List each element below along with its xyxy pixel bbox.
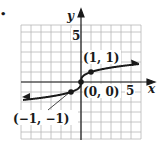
y-axis-label: y [66,9,75,23]
label-point-1-1: (1, 1) [83,51,119,65]
y-axis-arrow-icon [78,9,84,17]
point-1-1 [88,69,94,75]
label-point-origin: (0, 0) [83,85,119,99]
list-bullet: • [0,8,6,19]
x-tick-5: 5 [126,84,134,98]
point-neg1-neg1 [68,89,74,95]
cube-root-graph: • y x 5 5 (1, 1) (0, 0) (−1, −1) [0,0,166,150]
label-point-neg1-neg1: (−1, −1) [13,112,70,126]
point-origin [78,79,84,85]
x-axis-label: x [147,82,156,96]
y-tick-5: 5 [72,29,80,43]
